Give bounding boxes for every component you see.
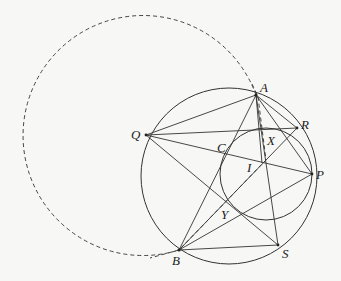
label-b: B bbox=[172, 253, 180, 268]
point-q bbox=[145, 134, 148, 137]
label-a: A bbox=[259, 80, 268, 95]
label-y: Y bbox=[221, 207, 230, 222]
segment-b-r bbox=[179, 128, 297, 250]
segment-a-r bbox=[256, 95, 297, 128]
segment-b-s bbox=[179, 245, 278, 250]
segments bbox=[146, 95, 312, 250]
inner-circle bbox=[220, 128, 312, 220]
segment-q-s bbox=[146, 135, 278, 245]
geometry-diagram: A Q R C X I P Y B S bbox=[0, 0, 341, 281]
label-c: C bbox=[217, 140, 226, 155]
segment-a-s bbox=[256, 95, 278, 245]
point-b bbox=[177, 248, 180, 251]
label-s: S bbox=[282, 246, 289, 261]
label-x: X bbox=[266, 133, 276, 148]
label-r: R bbox=[300, 117, 309, 132]
point-a bbox=[254, 93, 257, 96]
point-r bbox=[296, 127, 299, 130]
label-q: Q bbox=[131, 127, 141, 142]
points bbox=[145, 93, 314, 251]
label-p: P bbox=[315, 167, 324, 182]
point-p bbox=[311, 173, 314, 176]
circumcircle bbox=[141, 88, 317, 264]
diagram-canvas: A Q R C X I P Y B S bbox=[0, 0, 341, 281]
label-i: I bbox=[246, 160, 252, 175]
segment-q-p bbox=[146, 135, 312, 174]
point-s bbox=[277, 244, 280, 247]
